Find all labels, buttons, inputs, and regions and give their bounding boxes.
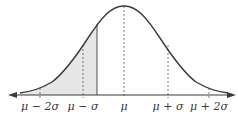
tick-label-mu-plus-2sigma: μ + 2σ — [190, 100, 228, 114]
tick-label-mu-minus-2sigma: μ − 2σ — [21, 100, 59, 114]
tick-label-mu-plus-sigma: μ + σ — [153, 100, 184, 114]
tick-label-mu-minus-sigma: μ − σ — [68, 100, 99, 114]
shaded-region — [20, 24, 97, 95]
axis-arrow-left-icon — [8, 92, 17, 98]
tick-label-mu: μ — [120, 100, 127, 114]
axis-arrow-right-icon — [227, 92, 236, 98]
